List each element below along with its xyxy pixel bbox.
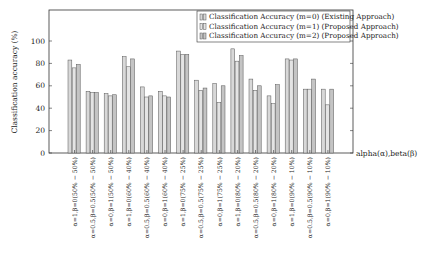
x-tick-label: α=0.5,β=0.5(50% − 50%) — [89, 157, 97, 238]
bar — [113, 95, 117, 153]
bar — [221, 86, 225, 153]
bar — [285, 59, 289, 153]
x-axis: α=1,β=0(50% − 50%)α=0.5,β=0.5(50% − 50%)… — [71, 150, 332, 238]
y-tick-label: 80 — [35, 59, 45, 68]
legend-swatch — [204, 33, 207, 39]
bar — [127, 67, 131, 153]
y-tick-label: 100 — [31, 37, 46, 46]
legend-swatch — [200, 14, 203, 20]
legend-swatch — [200, 24, 203, 30]
y-tick-label: 20 — [35, 126, 45, 135]
bar — [90, 93, 94, 153]
x-tick-label: α=0,β=1(50% − 50%) — [107, 157, 115, 226]
bar — [163, 96, 167, 153]
x-tick-label: α=1,β=0(50% − 50%) — [71, 157, 79, 226]
x-tick-label: α=1,β=0(80% − 20%) — [234, 157, 242, 226]
bar — [149, 96, 153, 153]
bar — [231, 49, 235, 153]
y-axis-label: Classification accuracy (%) — [10, 30, 19, 133]
bar — [294, 59, 298, 153]
bar — [326, 105, 330, 153]
x-tick-label: α=0,β=1(90% − 10%) — [324, 157, 332, 226]
bar — [308, 89, 312, 153]
bar — [122, 57, 126, 153]
bar — [76, 65, 80, 153]
bar — [303, 89, 307, 153]
bar — [177, 51, 181, 153]
bar — [267, 96, 271, 153]
bar — [239, 56, 243, 153]
legend-swatch — [204, 24, 207, 30]
bar — [195, 80, 199, 153]
legend-swatch — [204, 14, 207, 20]
bar — [276, 85, 280, 153]
x-tick-label: α=0.5,β=0.5(75% − 25%) — [197, 157, 205, 238]
bar — [159, 91, 163, 153]
x-axis-label: alpha(α),beta(β) — [356, 149, 417, 158]
bar — [289, 60, 293, 153]
bar — [68, 60, 72, 153]
x-tick-label: α=1,β=0(75% − 25%) — [179, 157, 187, 226]
bars — [68, 49, 334, 153]
legend-swatch — [200, 33, 203, 39]
bar — [104, 94, 108, 153]
bar — [72, 68, 76, 153]
legend-entry: Classification Accuracy (m=2) (Proposed … — [209, 31, 399, 40]
bar — [203, 88, 207, 153]
bar — [330, 89, 334, 153]
bar — [321, 89, 325, 153]
x-tick-label: α=0.5,β=0.5(80% − 20%) — [252, 157, 260, 238]
bar — [131, 59, 135, 153]
x-tick-label: α=0.5,β=0.5(60% − 40%) — [143, 157, 151, 238]
legend-entry: Classification Accuracy (m=1) (Proposed … — [209, 22, 399, 31]
bar — [235, 61, 239, 153]
bar — [213, 84, 217, 153]
bar — [108, 96, 112, 153]
x-tick-label: α=1,β=0(90% − 10%) — [288, 157, 296, 226]
legend-entry: Classification Accuracy (m=0) (Existing … — [209, 12, 394, 21]
bar-chart: 020406080100 α=1,β=0(50% − 50%)α=0.5,β=0… — [0, 0, 425, 260]
x-tick-label: α=0,β=1(60% − 40%) — [161, 157, 169, 226]
x-tick-label: α=0,β=1(80% − 20%) — [270, 157, 278, 226]
bar — [86, 91, 90, 153]
bar — [271, 104, 275, 153]
bar — [312, 79, 316, 153]
x-tick-label: α=0,β=1(75% − 25%) — [216, 157, 224, 226]
bar — [217, 103, 221, 153]
y-tick-label: 0 — [40, 149, 45, 158]
bar — [145, 97, 149, 153]
bar — [199, 90, 203, 153]
bar — [253, 90, 257, 153]
x-tick-label: α=0.5,β=0.5(90% − 10%) — [306, 157, 314, 238]
x-tick-label: α=1,β=0(60% − 40%) — [125, 157, 133, 226]
bar — [181, 54, 185, 153]
bar — [140, 87, 144, 153]
bar — [257, 86, 261, 153]
bar — [167, 97, 171, 153]
bar — [95, 93, 99, 153]
y-tick-label: 40 — [35, 104, 45, 113]
y-tick-label: 60 — [35, 81, 45, 90]
bar — [185, 54, 189, 153]
bar — [249, 79, 253, 153]
legend: Classification Accuracy (m=0) (Existing … — [197, 11, 399, 42]
